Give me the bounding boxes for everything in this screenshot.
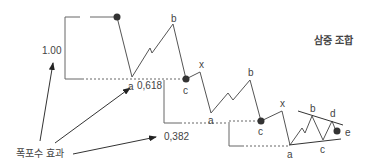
wave-label-d3: d [330, 108, 336, 119]
dot-c2 [258, 118, 265, 125]
wave-label-x3: x [280, 98, 285, 109]
dot-c1 [183, 76, 190, 83]
level-label-1-00: 1.00 [42, 45, 62, 56]
triple-combination-diagram: 1.00 0,618 0,382 a b c x a b c x a b c d… [0, 0, 370, 168]
arrow-to-0-382 [73, 137, 156, 154]
wave-label-c3: c [320, 144, 325, 155]
wave-label-b2: b [248, 67, 254, 78]
arrow-to-1-00 [40, 63, 53, 141]
wave-label-a1: a [128, 81, 134, 92]
wave-label-a3: a [287, 149, 293, 160]
level-label-0-618: 0,618 [137, 80, 162, 91]
wave-label-b1: b [171, 13, 177, 24]
wave-label-b3: b [310, 103, 316, 114]
triangle-upper-trendline [298, 111, 343, 125]
bracket-1-00 [65, 17, 186, 79]
dot-start [114, 14, 121, 21]
caption-waterfall-effect: 폭포수 효과 [16, 148, 64, 159]
level-label-0-382: 0,382 [164, 131, 189, 142]
triangle-lower-trendline [289, 139, 341, 145]
wave-label-a2: a [208, 115, 214, 126]
wave-label-x2: x [199, 59, 204, 70]
arrow-to-0-618 [55, 88, 130, 143]
wave-label-c1: c [183, 85, 188, 96]
wave-label-e3: e [345, 127, 351, 138]
wave-label-c2: c [258, 126, 263, 137]
diagram-title: 삼중 조합 [314, 34, 354, 46]
dot-e [334, 128, 341, 135]
